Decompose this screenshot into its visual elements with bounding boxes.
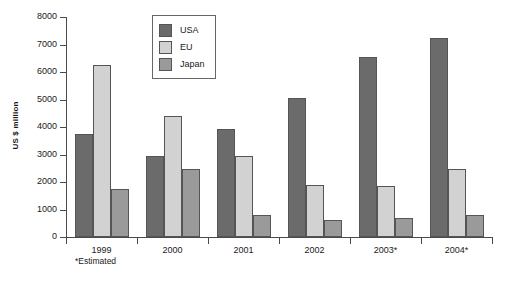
bar-group: 2004*	[421, 17, 492, 237]
legend-item-label: EU	[180, 42, 193, 52]
legend-item-eu[interactable]: EU	[159, 39, 205, 55]
x-axis-tick	[492, 237, 493, 244]
bar-eu-2002	[306, 185, 324, 237]
bar-japan-2004	[466, 215, 484, 237]
bar-usa-2002	[288, 98, 306, 237]
x-axis-tick	[350, 237, 351, 244]
y-axis-tick-label: 5000	[37, 94, 57, 104]
legend-item-label: USA	[180, 25, 199, 35]
bar-usa-2000	[146, 156, 164, 237]
y-axis-tick-label: 4000	[37, 121, 57, 131]
y-axis-title-text: US $ million	[11, 101, 20, 149]
bar-japan-2000	[182, 169, 200, 237]
bar-japan-1999	[111, 189, 129, 237]
x-axis-tick	[137, 237, 138, 244]
y-axis-tick-label: 0	[52, 231, 57, 241]
x-axis-tick-label: 2003*	[350, 245, 421, 255]
y-axis-tick-label: 7000	[37, 39, 57, 49]
legend-swatch-icon	[159, 24, 172, 37]
x-axis-tick-label: 1999	[66, 245, 137, 255]
legend-item-japan[interactable]: Japan	[159, 56, 205, 72]
y-axis-tick-label: 2000	[37, 176, 57, 186]
x-axis-tick-label: 2001	[208, 245, 279, 255]
legend: USAEUJapan	[152, 15, 216, 79]
bar-japan-2001	[253, 215, 271, 237]
bar-group-bars	[350, 17, 421, 237]
x-axis-tick	[421, 237, 422, 244]
x-axis-tick-label: 2004*	[421, 245, 492, 255]
bar-eu-2001	[235, 156, 253, 237]
bar-eu-2004	[448, 169, 466, 237]
legend-item-label: Japan	[180, 59, 205, 69]
footnote: *Estimated	[75, 256, 116, 266]
bar-usa-2003	[359, 57, 377, 237]
bar-group: 2001	[208, 17, 279, 237]
bar-usa-2004	[430, 38, 448, 237]
legend-swatch-icon	[159, 41, 172, 54]
bar-japan-2003	[395, 218, 413, 237]
bar-eu-2000	[164, 116, 182, 237]
bar-group: 1999	[66, 17, 137, 237]
bar-group: 2002	[279, 17, 350, 237]
x-axis-tick	[208, 237, 209, 244]
bar-group-bars	[208, 17, 279, 237]
bar-group: 2003*	[350, 17, 421, 237]
x-axis-tick-label: 2002	[279, 245, 350, 255]
bar-eu-1999	[93, 65, 111, 237]
bar-group-bars	[421, 17, 492, 237]
bar-japan-2002	[324, 220, 342, 237]
y-axis-title: US $ million	[4, 0, 26, 250]
y-axis-tick-label: 1000	[37, 204, 57, 214]
bar-usa-2001	[217, 129, 235, 237]
x-axis-tick	[66, 237, 67, 244]
plot-area: 800070006000500040003000200010000 199920…	[66, 17, 492, 237]
x-axis-tick	[279, 237, 280, 244]
legend-swatch-icon	[159, 58, 172, 71]
bar-usa-1999	[75, 134, 93, 237]
bar-eu-2003	[377, 186, 395, 237]
y-axis-tick-label: 6000	[37, 66, 57, 76]
y-axis-tick-label: 8000	[37, 11, 57, 21]
bar-chart: US $ million 800070006000500040003000200…	[0, 0, 512, 282]
y-axis-tick-label: 3000	[37, 149, 57, 159]
bar-group-bars	[66, 17, 137, 237]
bar-group-bars	[279, 17, 350, 237]
legend-item-usa[interactable]: USA	[159, 22, 205, 38]
x-axis-tick-label: 2000	[137, 245, 208, 255]
